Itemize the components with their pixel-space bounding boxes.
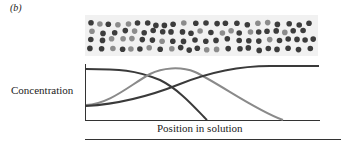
x-axis-label: Position in solution <box>157 122 243 134</box>
y-axis-label: Concentration <box>11 84 73 96</box>
curve-gray-bell <box>86 68 283 120</box>
curve-dark-ascending <box>86 66 319 106</box>
bottom-rule <box>85 139 341 140</box>
